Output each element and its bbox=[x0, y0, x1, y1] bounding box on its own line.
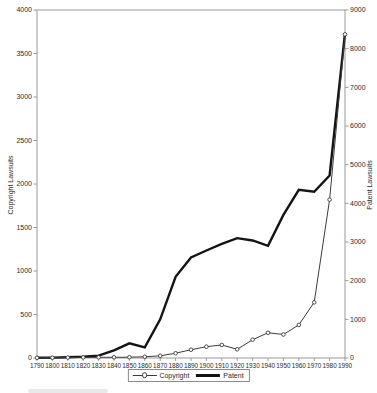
right-axis-tick-label: 3000 bbox=[350, 238, 366, 245]
right-axis-tick-label: 0 bbox=[350, 354, 354, 361]
x-axis-tick-label: 1940 bbox=[261, 362, 276, 369]
x-axis-tick-label: 1960 bbox=[292, 362, 307, 369]
copyright-marker bbox=[189, 348, 193, 352]
copyright-marker bbox=[205, 345, 209, 349]
left-axis-tick-label: 1000 bbox=[16, 267, 32, 274]
x-axis-tick-label: 1810 bbox=[61, 362, 76, 369]
left-axis-tick-label: 500 bbox=[20, 311, 32, 318]
copyright-marker bbox=[158, 354, 162, 358]
x-axis-tick-label: 1790 bbox=[30, 362, 45, 369]
left-axis-tick-label: 0 bbox=[28, 354, 32, 361]
right-axis-tick-label: 1000 bbox=[350, 316, 366, 323]
left-axis-tick-label: 4000 bbox=[16, 6, 32, 13]
copyright-marker bbox=[282, 333, 286, 337]
right-axis-tick-label: 5000 bbox=[350, 161, 366, 168]
right-axis-tick-label: 4000 bbox=[350, 200, 366, 207]
copyright-line-sample bbox=[132, 375, 156, 376]
copyright-marker bbox=[143, 355, 147, 359]
chart-canvas: 0500100015002000250030003500400001000200… bbox=[0, 0, 377, 368]
cropped-caption-artifact bbox=[28, 389, 108, 393]
left-axis-tick-label: 3000 bbox=[16, 93, 32, 100]
x-axis-tick-label: 1800 bbox=[45, 362, 60, 369]
x-axis-tick-label: 1820 bbox=[76, 362, 91, 369]
copyright-marker bbox=[66, 356, 70, 360]
right-axis-tick-label: 6000 bbox=[350, 122, 366, 129]
patent-line-sample bbox=[196, 374, 220, 377]
x-axis-tick-label: 1840 bbox=[107, 362, 122, 369]
legend-label-patent: Patent bbox=[223, 372, 243, 379]
copyright-marker bbox=[251, 338, 255, 342]
copyright-marker bbox=[343, 33, 347, 37]
x-axis-tick-label: 1980 bbox=[322, 362, 337, 369]
copyright-marker bbox=[297, 323, 301, 327]
copyright-line bbox=[37, 34, 345, 357]
copyright-marker bbox=[81, 356, 85, 360]
left-axis-tick-label: 1500 bbox=[16, 224, 32, 231]
chart-legend: Copyright Patent bbox=[127, 369, 249, 382]
right-axis-tick-label: 9000 bbox=[350, 6, 366, 13]
x-axis-tick-label: 1990 bbox=[338, 362, 353, 369]
right-axis-tick-label: 7000 bbox=[350, 84, 366, 91]
copyright-marker bbox=[328, 198, 332, 202]
x-axis-tick-label: 1910 bbox=[215, 362, 230, 369]
x-axis-tick-label: 1930 bbox=[245, 362, 260, 369]
left-axis-tick-label: 3500 bbox=[16, 50, 32, 57]
circle-marker-icon bbox=[142, 373, 148, 379]
copyright-marker bbox=[35, 356, 39, 360]
copyright-marker bbox=[312, 301, 316, 305]
x-axis-tick-label: 1970 bbox=[307, 362, 322, 369]
copyright-marker bbox=[174, 351, 178, 355]
legend-label-copyright: Copyright bbox=[159, 372, 189, 379]
x-axis-tick-label: 1850 bbox=[122, 362, 137, 369]
copyright-marker bbox=[220, 343, 224, 347]
x-axis-tick-label: 1860 bbox=[138, 362, 153, 369]
x-axis-tick-label: 1920 bbox=[230, 362, 245, 369]
copyright-marker bbox=[112, 356, 116, 360]
left-axis-tick-label: 2500 bbox=[16, 137, 32, 144]
right-axis-tick-label: 8000 bbox=[350, 45, 366, 52]
x-axis-tick-label: 1900 bbox=[199, 362, 214, 369]
copyright-marker bbox=[97, 356, 101, 360]
x-axis-tick-label: 1890 bbox=[184, 362, 199, 369]
x-axis-tick-label: 1880 bbox=[168, 362, 183, 369]
copyright-marker bbox=[266, 331, 270, 335]
left-axis-tick-label: 2000 bbox=[16, 180, 32, 187]
x-axis-tick-label: 1870 bbox=[153, 362, 168, 369]
left-axis-title: Copyright Lawsuits bbox=[7, 155, 14, 214]
chart-figure: 0500100015002000250030003500400001000200… bbox=[0, 0, 377, 393]
x-axis-tick-label: 1950 bbox=[276, 362, 291, 369]
right-axis-title: Patent Lawsuits bbox=[366, 160, 373, 209]
plot-frame bbox=[37, 10, 345, 358]
patent-line bbox=[37, 33, 345, 358]
right-axis-tick-label: 2000 bbox=[350, 277, 366, 284]
copyright-marker bbox=[128, 355, 132, 359]
x-axis-tick-label: 1830 bbox=[91, 362, 106, 369]
copyright-marker bbox=[235, 348, 239, 352]
copyright-marker bbox=[51, 356, 55, 360]
